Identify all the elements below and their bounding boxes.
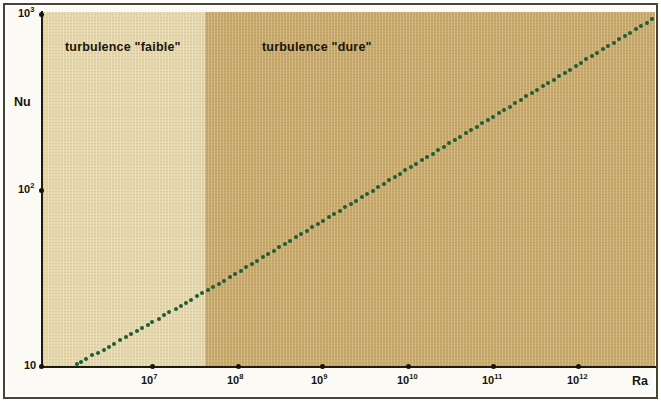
data-point: [135, 329, 139, 333]
data-point: [475, 125, 479, 129]
data-point: [442, 145, 446, 149]
x-tick-label: 107: [141, 374, 157, 386]
data-point: [102, 348, 106, 352]
x-tick-dot: [491, 364, 496, 369]
data-point: [579, 61, 583, 65]
data-point: [371, 189, 375, 193]
data-point: [239, 269, 243, 273]
x-tick-label: 108: [227, 374, 243, 386]
data-point: [211, 285, 215, 289]
data-point: [305, 229, 309, 233]
data-point: [612, 41, 616, 45]
x-tick-dot: [320, 364, 325, 369]
data-point: [568, 68, 572, 72]
data-point: [283, 242, 287, 246]
data-point: [184, 301, 188, 305]
x-tick-label: 1010: [397, 374, 418, 386]
data-point: [453, 138, 457, 142]
x-tick-dot: [150, 364, 155, 369]
x-tick-label: 1012: [567, 374, 588, 386]
y-tick-dot: [39, 364, 44, 369]
annotation-turbulence-dure: turbulence "dure": [262, 40, 372, 54]
data-point: [519, 98, 523, 102]
data-point: [250, 262, 254, 266]
data-point: [124, 335, 128, 339]
region-turbulence-faible: [42, 12, 205, 366]
data-point: [349, 202, 353, 206]
data-point: [360, 195, 364, 199]
x-axis-label: Ra: [632, 374, 648, 388]
data-point: [574, 64, 578, 68]
data-point: [157, 317, 161, 321]
data-point: [535, 88, 539, 92]
data-point: [217, 282, 221, 286]
data-point: [645, 21, 649, 25]
figure-container: turbulence "faible" turbulence "dure" 10…: [0, 0, 661, 402]
data-point: [338, 209, 342, 213]
plot-area: turbulence "faible" turbulence "dure": [42, 12, 655, 366]
data-point: [552, 78, 556, 82]
data-point: [382, 182, 386, 186]
y-axis-label: Nu: [14, 95, 31, 109]
y-tick-dot: [39, 188, 44, 193]
y-tick-label: 10: [24, 359, 36, 371]
data-point: [228, 275, 232, 279]
data-point: [222, 279, 226, 283]
data-point: [398, 172, 402, 176]
annotation-turbulence-faible: turbulence "faible": [65, 40, 181, 54]
data-point: [146, 323, 150, 327]
data-point: [354, 199, 358, 203]
data-point: [174, 307, 178, 311]
data-point: [530, 91, 534, 95]
data-point: [321, 219, 325, 223]
x-axis-line: [41, 366, 657, 368]
data-point: [96, 351, 100, 355]
data-point: [491, 115, 495, 119]
data-point: [272, 249, 276, 253]
data-point: [393, 175, 397, 179]
x-tick-label: 1011: [482, 374, 502, 386]
data-point: [623, 34, 627, 38]
x-tick-label: 109: [311, 374, 327, 386]
data-point: [179, 304, 183, 308]
data-point: [431, 152, 435, 156]
y-tick-label: 103: [18, 7, 34, 19]
data-point: [497, 111, 501, 115]
x-tick-dot: [406, 364, 411, 369]
x-tick-dot: [236, 364, 241, 369]
data-point: [486, 118, 490, 122]
data-point: [79, 360, 83, 364]
y-tick-dot: [39, 12, 44, 17]
data-point: [563, 71, 567, 75]
x-tick-dot: [576, 364, 581, 369]
data-point: [365, 192, 369, 196]
data-point: [112, 342, 116, 346]
data-point: [508, 105, 512, 109]
data-point: [409, 165, 413, 169]
data-point: [206, 288, 210, 292]
y-tick-label: 102: [18, 183, 34, 195]
data-point: [316, 222, 320, 226]
data-point: [150, 320, 154, 324]
region-turbulence-dure: [205, 12, 655, 366]
data-point: [107, 345, 111, 349]
